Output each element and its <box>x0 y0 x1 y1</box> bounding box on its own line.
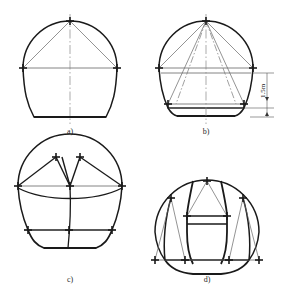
construction-lines <box>155 181 259 260</box>
ray-right-dashdot <box>206 21 236 104</box>
sidewall-outline <box>155 232 259 260</box>
ray-left-outer <box>159 21 206 68</box>
drift-line-left-1 <box>171 198 185 260</box>
invert-outline <box>28 230 112 248</box>
panel-d-caption: d) <box>187 276 227 284</box>
center-partition <box>68 186 70 248</box>
dimension-value: 1.5m <box>259 83 267 98</box>
survey-points <box>151 177 263 264</box>
core-left-wall <box>187 181 193 264</box>
ray-left-dashdot <box>176 21 206 104</box>
drift-line-left-2 <box>155 198 171 260</box>
ray-right-outer <box>206 21 253 68</box>
panel-b-drawing: 1.5m <box>141 0 282 126</box>
panel-c: c) <box>0 152 141 305</box>
core-right-wall <box>221 181 227 264</box>
dim-arrow-down <box>265 112 269 116</box>
right-drift-outline <box>243 198 250 260</box>
panel-b: 1.5m b) <box>141 0 282 126</box>
invert-outline <box>165 260 249 274</box>
panel-c-caption: c) <box>50 276 90 284</box>
drift-line-right-2 <box>243 198 259 260</box>
panel-a-drawing <box>0 0 141 126</box>
left-drift-outline <box>164 198 171 260</box>
crown-diagonals <box>18 157 122 186</box>
panel-d: d) <box>141 152 282 305</box>
arch-crown-outline <box>18 134 122 186</box>
panel-b-caption: b) <box>186 128 226 136</box>
panel-a-caption: a) <box>50 128 90 136</box>
drift-line-right-1 <box>229 198 243 260</box>
figure-sheet: a) <box>0 0 282 305</box>
panel-a: a) <box>0 0 141 126</box>
crown-heading-wedge <box>56 157 80 186</box>
wedge-right <box>70 157 80 186</box>
